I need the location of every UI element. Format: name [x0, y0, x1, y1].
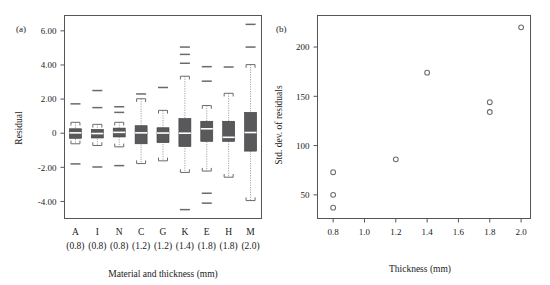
boxplot-H [223, 67, 235, 177]
panel-b-ytick-label: 150 [296, 92, 310, 102]
panel-a-thickness-label: (1.4) [176, 241, 194, 252]
box-iqr [135, 126, 147, 144]
panel-a-ytick-label: 2.00 [41, 94, 57, 104]
data-point [425, 70, 430, 75]
panel-b-xtick-label: 1.6 [453, 227, 465, 237]
panel-a-thickness-label: (0.8) [88, 241, 106, 252]
box-iqr [157, 128, 169, 143]
box-iqr [201, 121, 213, 141]
panel-a-xlabel: Material and thickness (mm) [108, 269, 217, 280]
boxplot-G [157, 87, 169, 160]
panel-a-ytick-label: -2.00 [38, 163, 57, 173]
panel-a-boxplot: (a) Residual Material and thickness (mm)… [0, 0, 270, 285]
panel-a-ytick-label: 4.00 [41, 60, 57, 70]
panel-a-category-label: E [204, 227, 210, 237]
panel-a-boxes [69, 24, 256, 209]
panel-a-category-label: N [116, 227, 123, 237]
panel-a-thickness-label: (2.0) [241, 241, 259, 252]
panel-b-label: (b) [276, 24, 287, 34]
panel-a-category-label: H [225, 227, 232, 237]
panel-a-category-labels: A(0.8)I(0.8)N(0.8)C(1.2)G(1.2)K(1.4)E(1.… [66, 227, 259, 252]
boxplot-K [179, 47, 191, 210]
panel-b-svg: (b) Std. dev. of residuals Thickness (mm… [260, 0, 550, 285]
box-iqr [223, 121, 235, 141]
panel-b-scatter: (b) Std. dev. of residuals Thickness (mm… [260, 0, 550, 285]
panel-b-frame [318, 16, 531, 219]
panel-a-thickness-label: (1.2) [132, 241, 150, 252]
data-point [487, 100, 492, 105]
panel-a-thickness-label: (1.2) [154, 241, 172, 252]
panel-b-xlabel: Thickness (mm) [389, 264, 451, 275]
panel-a-thickness-label: (1.8) [220, 241, 238, 252]
panel-b-xtick-label: 1.2 [390, 227, 401, 237]
panel-b-ytick-label: 100 [296, 141, 310, 151]
panel-b-xtick-label: 1.8 [484, 227, 496, 237]
data-point [331, 192, 336, 197]
panel-b-xtick-label: 1.4 [422, 227, 434, 237]
boxplot-N [113, 107, 125, 166]
panel-a-svg: (a) Residual Material and thickness (mm)… [0, 0, 270, 285]
panel-b-xtick-label: 1.0 [359, 227, 371, 237]
panel-a-ylabel: Residual [14, 111, 24, 145]
panel-a-axis: 6.004.002.000-2.00-4.00 [38, 26, 65, 207]
panel-a-ytick-label: 6.00 [41, 26, 57, 36]
whisker-cap-bottom [246, 197, 255, 200]
panel-a-category-label: I [96, 227, 99, 237]
panel-a-category-label: A [72, 227, 79, 237]
panel-a-category-label: G [160, 227, 167, 237]
panel-a-thickness-label: (0.8) [66, 241, 84, 252]
data-point [487, 110, 492, 115]
panel-b-points [331, 25, 524, 210]
boxplot-I [91, 91, 103, 167]
data-point [519, 25, 524, 30]
data-point [393, 157, 398, 162]
panel-a-category-label: K [181, 227, 188, 237]
boxplot-A [69, 104, 81, 164]
panel-a-thickness-label: (1.8) [198, 241, 216, 252]
panel-b-ylabel: Std. dev. of residuals [274, 85, 284, 165]
panel-a-thickness-label: (0.8) [110, 241, 128, 252]
panel-b-xtick-label: 2.0 [515, 227, 527, 237]
panel-b-ytick-label: 50 [301, 190, 311, 200]
panel-a-ytick-label: 0 [52, 128, 57, 138]
figure-container: (a) Residual Material and thickness (mm)… [0, 0, 550, 285]
data-point [331, 205, 336, 210]
panel-b-xtick-label: 0.8 [328, 227, 340, 237]
boxplot-E [201, 67, 213, 203]
panel-a-label: (a) [16, 24, 26, 34]
panel-a-category-label: C [138, 227, 144, 237]
panel-a-category-label: M [246, 227, 255, 237]
data-point [331, 170, 336, 175]
boxplot-M [245, 24, 257, 200]
panel-a-ytick-label: -4.00 [38, 197, 57, 207]
panel-a-frame [65, 16, 262, 219]
panel-b-ytick-label: 200 [296, 42, 310, 52]
boxplot-C [135, 94, 147, 164]
